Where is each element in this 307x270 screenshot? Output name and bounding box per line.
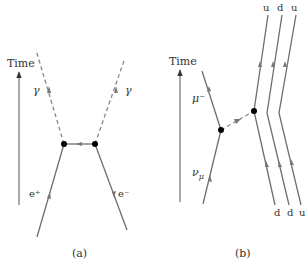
time-label-b: Time [169, 55, 197, 68]
muon-label: μ⁻ [192, 92, 205, 105]
bottom-quark-3: u [299, 207, 306, 218]
panel-b: Time μ⁻ νμ u d u d d u (b) [169, 2, 306, 260]
photon-right-line [95, 58, 125, 144]
electron-label: e⁻ [118, 188, 129, 199]
top-quark-2: d [277, 2, 284, 13]
neutrino-line [203, 130, 221, 204]
vertex-weak-quark [251, 108, 257, 114]
w-boson-arrow-icon [234, 119, 241, 124]
photon-left-line [36, 50, 64, 144]
photon-right-label: γ [125, 84, 132, 97]
top-quark-1: u [263, 2, 270, 13]
time-label-a: Time [7, 57, 35, 70]
propagator-arrow-icon [76, 142, 82, 146]
caption-a: (a) [72, 247, 87, 260]
photon-left-label: γ [33, 84, 40, 97]
electron-line [95, 144, 127, 230]
electron-arrow-icon [112, 191, 116, 198]
panel-a: Time γ γ e⁺ e⁻ (a) [7, 50, 132, 260]
bottom-quark-2: d [287, 207, 294, 218]
top-quark-3: u [291, 2, 298, 13]
feynman-diagrams: Time γ γ e⁺ e⁻ (a) Time μ⁻ νμ [0, 0, 307, 270]
quark-3-up-arrow-icon [283, 61, 287, 67]
vertex-right [92, 141, 98, 147]
neutrino-label: νμ [192, 166, 204, 181]
vertex-weak-lepton [218, 127, 224, 133]
bottom-quark-1: d [274, 207, 281, 218]
quark-line-2 [267, 15, 289, 205]
caption-b: (b) [235, 247, 251, 260]
positron-label: e⁺ [29, 188, 40, 199]
vertex-left [61, 141, 67, 147]
positron-line [37, 144, 64, 237]
quark-line-1 [254, 15, 275, 205]
